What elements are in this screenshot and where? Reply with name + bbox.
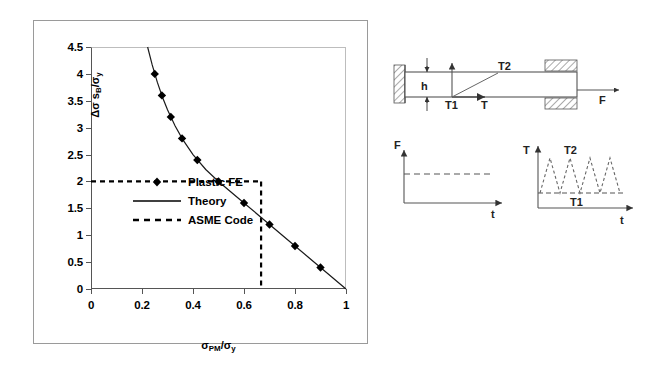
y-tick-label: 0.5 [53, 256, 83, 268]
y-tick-label: 2.5 [53, 149, 83, 161]
x-tick-label: 0.8 [287, 299, 302, 311]
plot-area: 0 0.5 1 1.5 2 2.5 3 3.5 4 4.5 0 0.2 0.4 … [91, 47, 346, 289]
force-time-plot: F t [394, 139, 502, 220]
legend-item-asme-code: ASME Code [131, 210, 253, 229]
y-tick-label: 3 [53, 122, 83, 134]
theory-curve [148, 47, 346, 289]
beam-thickness-label: h [421, 80, 428, 92]
y-tick-label: 2 [53, 175, 83, 187]
beam-force-label: F [599, 94, 606, 106]
temp-plot-y-label: T [523, 144, 530, 156]
legend-label: Plastic FE [188, 176, 243, 188]
beam-diagram: h T1 T2 T F [394, 58, 619, 111]
data-point-marker [167, 113, 175, 121]
beam-T-axis-label: T [481, 99, 488, 111]
x-axis-label: σPM/σy [201, 339, 235, 353]
temperature-time-plot: T t T2 T1 [523, 144, 633, 226]
x-tick-mark [295, 289, 296, 294]
y-tick-label: 1.5 [53, 202, 83, 214]
legend-item-theory: Theory [131, 191, 253, 210]
y-tick-label: 4.5 [53, 41, 83, 53]
temp-plot-x-label: t [620, 214, 624, 226]
beam-body [405, 72, 577, 97]
schematic-panel: h T1 T2 T F F t [390, 48, 666, 278]
y-tick-label: 4 [53, 68, 83, 80]
x-tick-mark [193, 289, 194, 294]
x-tick-label: 1 [343, 299, 349, 311]
chart-panel: 0 0.5 1 1.5 2 2.5 3 3.5 4 4.5 0 0.2 0.4 … [33, 20, 368, 344]
data-point-marker [151, 70, 159, 78]
chart-plot-svg [91, 47, 346, 289]
figure-root: 0 0.5 1 1.5 2 2.5 3 3.5 4 4.5 0 0.2 0.4 … [0, 0, 672, 366]
legend-item-plastic-fe: Plastic FE [131, 172, 253, 191]
temp-plot-T1-label: T1 [570, 196, 583, 208]
data-point-marker [158, 91, 166, 99]
force-plot-x-label: t [491, 208, 495, 220]
x-tick-label: 0.2 [134, 299, 149, 311]
force-plot-y-label: F [394, 139, 401, 151]
x-tick-mark [91, 289, 92, 294]
schematic-svg: h T1 T2 T F F t [390, 48, 666, 278]
x-tick-mark [346, 289, 347, 294]
data-point-marker [178, 134, 186, 142]
x-tick-mark [244, 289, 245, 294]
x-tick-label: 0 [88, 299, 94, 311]
dashed-line-icon [131, 213, 183, 227]
left-wall-support [394, 65, 405, 103]
x-tick-mark [142, 289, 143, 294]
temp-plot-cycles [540, 158, 620, 193]
right-support-bottom [545, 98, 577, 109]
beam-T1-label: T1 [445, 99, 458, 111]
x-axis-label-text: σPM/σy [201, 339, 235, 351]
x-tick-label: 0.4 [185, 299, 200, 311]
y-tick-label: 3.5 [53, 95, 83, 107]
y-tick-label: 1 [53, 229, 83, 241]
chart-legend: Plastic FE Theory [131, 172, 253, 229]
temp-plot-T2-label: T2 [564, 144, 577, 156]
y-tick-label: 0 [53, 283, 83, 295]
diamond-marker-icon [131, 175, 183, 189]
right-support-top [545, 60, 577, 71]
legend-label: ASME Code [188, 214, 253, 226]
beam-T2-label: T2 [498, 60, 511, 72]
x-tick-label: 0.6 [236, 299, 251, 311]
legend-label: Theory [188, 195, 226, 207]
plastic-fe-markers [151, 70, 325, 272]
solid-line-icon [131, 194, 183, 208]
